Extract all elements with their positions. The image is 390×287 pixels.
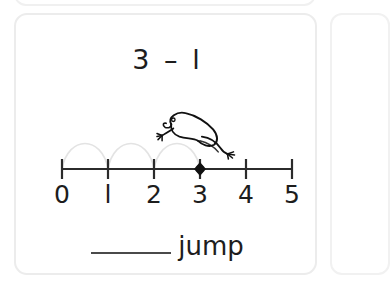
hop-arc-2-to-3 xyxy=(154,144,200,170)
number-line-figure: 0 l 2 3 4 5 xyxy=(16,93,319,213)
leaping-frog-icon xyxy=(157,113,235,159)
tick-label-5: 5 xyxy=(284,180,300,209)
tick-label-0: 0 xyxy=(54,180,70,209)
number-line-labels-group: 0 l 2 3 4 5 xyxy=(54,180,300,209)
worksheet-card-above xyxy=(14,0,316,6)
tick-label-2: 2 xyxy=(146,180,162,209)
hop-arc-1-to-2 xyxy=(108,144,154,170)
landing-marker xyxy=(194,162,206,176)
answer-word-label: jump xyxy=(178,231,244,261)
tick-label-3: 3 xyxy=(192,180,208,209)
hop-arc-0-to-1 xyxy=(62,144,108,170)
hop-arcs-group xyxy=(62,144,200,170)
tick-label-4: 4 xyxy=(238,180,254,209)
number-line-svg: 0 l 2 3 4 5 xyxy=(16,93,319,213)
answer-row: jump xyxy=(16,231,319,273)
worksheet-card-right xyxy=(330,13,390,275)
tick-label-1: l xyxy=(105,180,112,209)
problem-card[interactable]: 3 – l xyxy=(14,13,317,275)
equation-text: 3 – l xyxy=(16,46,319,73)
answer-blank-input[interactable] xyxy=(91,252,171,254)
